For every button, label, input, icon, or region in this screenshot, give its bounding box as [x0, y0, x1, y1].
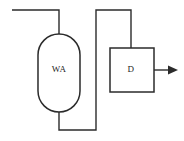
flow-diagram-canvas: WA D [0, 0, 184, 141]
process-flow-diagram: WA D [0, 0, 184, 141]
unit-box-d-label: D [128, 64, 135, 74]
vessel-wa-label: WA [52, 64, 67, 74]
vessel-outlet-line [59, 10, 131, 130]
product-outlet-arrow-icon [168, 66, 178, 75]
feed-inlet-line [12, 10, 59, 34]
